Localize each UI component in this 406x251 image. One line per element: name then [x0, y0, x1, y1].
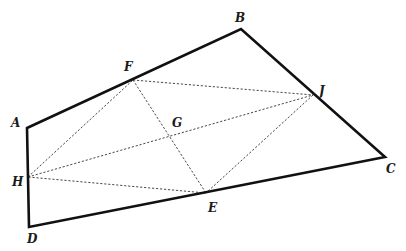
label-G: G — [172, 116, 182, 130]
quadrilateral-diagram: A B C D F J E H G — [0, 0, 406, 251]
label-C: C — [386, 162, 396, 176]
segment-JE — [206, 95, 313, 193]
label-D: D — [26, 232, 38, 246]
segment-EH — [28, 177, 206, 193]
diagonal-FE — [133, 80, 206, 193]
segment-HF — [28, 80, 133, 177]
quadrilateral-ABCD — [27, 29, 385, 227]
label-H: H — [11, 175, 24, 189]
label-B: B — [234, 11, 245, 25]
dashed-lines — [28, 80, 313, 193]
label-F: F — [123, 60, 134, 74]
label-J: J — [317, 84, 326, 98]
label-E: E — [207, 201, 218, 215]
segment-FJ — [133, 80, 313, 95]
label-A: A — [10, 116, 20, 130]
